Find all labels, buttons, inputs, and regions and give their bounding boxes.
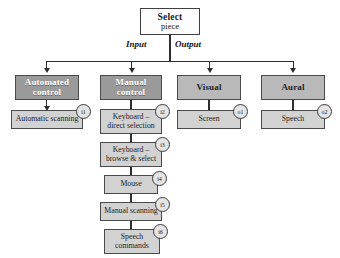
arrowhead-automated: [44, 68, 50, 73]
badge-i4: i4: [152, 171, 167, 186]
node-o2-speech: Speech: [261, 110, 325, 129]
header-visual: Visual: [177, 75, 241, 100]
root-node-select-piece: Select piece: [140, 8, 200, 35]
badge-i2: i2: [155, 104, 170, 119]
node-i3-line2: browse & select: [106, 155, 156, 163]
badge-i3: i3: [155, 137, 170, 152]
header-manual-control: Manual control: [100, 75, 162, 100]
node-i4-line1: Mouse: [120, 180, 141, 188]
node-i3-keyboard-browse-select: Keyboard – browse & select: [100, 142, 162, 167]
badge-i5: i5: [155, 197, 170, 212]
connector-visual-to-o1: [208, 100, 209, 110]
connector-root-stem: [169, 35, 170, 61]
header-automated-control-line2: control: [33, 88, 61, 98]
connector-manual-to-i2: [130, 100, 131, 109]
node-o2-line1: Speech: [282, 115, 305, 123]
node-i1-line1: Automatic scanning: [16, 115, 79, 123]
header-manual-control-line2: control: [117, 88, 145, 98]
header-automated-control: Automated control: [15, 75, 79, 100]
header-visual-line1: Visual: [196, 83, 221, 93]
node-i2-keyboard-direct-selection: Keyboard – direct selection: [100, 109, 162, 134]
node-i2-line2: direct selection: [107, 122, 154, 130]
badge-i1: i1: [76, 104, 91, 119]
connector-aural-to-o2: [292, 100, 293, 110]
label-input: Input: [126, 39, 147, 49]
node-i1-automatic-scanning: Automatic scanning: [11, 110, 83, 129]
connector-bus: [46, 61, 294, 62]
badge-i6: i6: [153, 224, 168, 239]
node-i5-line1: Manual scanning: [104, 207, 157, 215]
label-output: Output: [175, 39, 201, 49]
node-i6-line2: commands: [115, 242, 149, 250]
arrowhead-aural: [290, 68, 296, 73]
connector-i5-to-i6: [130, 221, 131, 229]
node-i4-mouse: Mouse: [104, 175, 158, 194]
arrowhead-manual: [129, 68, 135, 73]
node-i6-speech-commands: Speech commands: [104, 229, 160, 254]
node-i5-manual-scanning: Manual scanning: [100, 202, 162, 221]
badge-o2: o2: [317, 104, 332, 119]
root-subtitle: piece: [161, 22, 179, 31]
connector-i3-to-i4: [130, 167, 131, 175]
decision-tree-diagram: Select piece Input Output Automated cont…: [0, 0, 340, 258]
header-aural-line1: Aural: [281, 83, 304, 93]
node-o1-line1: Screen: [198, 115, 219, 123]
connector-i4-to-i5: [130, 194, 131, 202]
badge-o1: o1: [233, 104, 248, 119]
arrowhead-visual: [207, 68, 213, 73]
node-o1-screen: Screen: [177, 110, 241, 129]
header-aural: Aural: [261, 75, 325, 100]
connector-i2-to-i3: [130, 134, 131, 142]
